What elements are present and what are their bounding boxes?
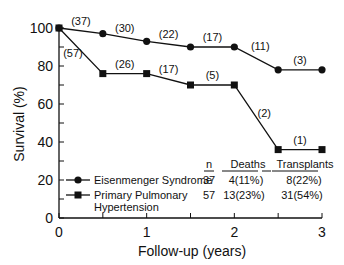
y-tick-label: 60: [37, 96, 53, 112]
y-tick-label: 100: [30, 20, 54, 36]
table-header-deaths: Deaths: [231, 158, 266, 170]
circle-marker-icon: [231, 43, 238, 50]
summary-table: n Deaths Transplants 37 4(11%) 8(22%) 57…: [203, 158, 334, 201]
circle-marker-icon: [143, 38, 150, 45]
table-cell-eis-transplants: 8(22%): [286, 174, 321, 186]
at-risk-count-label: (11): [251, 40, 270, 52]
y-tick-label: 0: [45, 210, 53, 226]
x-tick-label: 3: [318, 224, 326, 240]
square-marker-icon: [319, 146, 326, 153]
at-risk-count-label: (1): [293, 134, 306, 146]
legend: Eisenmenger Syndrome Primary Pulmonary H…: [66, 174, 212, 213]
at-risk-count-label: (22): [159, 28, 179, 40]
y-tick-label: 40: [37, 134, 53, 150]
square-marker-icon: [187, 82, 194, 89]
at-risk-count-label: (37): [71, 15, 91, 27]
square-marker-icon: [231, 82, 238, 89]
circle-marker-icon: [99, 30, 106, 37]
legend-eis-label: Eisenmenger Syndrome: [94, 174, 212, 186]
legend-pph-label-line1: Primary Pulmonary: [94, 189, 188, 201]
at-risk-count-label: (17): [159, 63, 179, 75]
table-cell-eis-deaths: 4(11%): [229, 174, 264, 186]
survival-chart: 0204060801000123 (37)(30)(22)(17)(11)(3)…: [0, 0, 344, 265]
table-header-transplants: Transplants: [276, 158, 334, 170]
square-marker-icon: [56, 25, 63, 32]
circle-marker-icon: [318, 66, 325, 73]
at-risk-count-label: (57): [63, 47, 83, 59]
circle-marker-icon: [275, 66, 282, 73]
at-risk-count-label: (30): [115, 22, 135, 34]
square-marker-icon: [143, 70, 150, 77]
y-tick-label: 80: [37, 58, 53, 74]
at-risk-count-label: (2): [258, 107, 271, 119]
table-cell-eis-n: 37: [203, 174, 215, 186]
y-axis-title: Survival (%): [11, 86, 27, 161]
x-tick-label: 1: [143, 224, 151, 240]
x-tick-label: 2: [230, 224, 238, 240]
series-layer: [55, 24, 325, 153]
y-tick-label: 20: [37, 172, 53, 188]
legend-square-marker-icon: [75, 192, 82, 199]
square-marker-icon: [99, 70, 106, 77]
circle-marker-icon: [187, 43, 194, 50]
at-risk-count-label: (5): [206, 69, 219, 81]
x-tick-label: 0: [55, 224, 63, 240]
at-risk-count-label: (3): [293, 54, 306, 66]
at-risk-count-label: (17): [203, 31, 223, 43]
x-axis-title: Follow-up (years): [138, 243, 246, 259]
square-marker-icon: [275, 146, 282, 153]
at-risk-count-label: (26): [115, 58, 135, 70]
legend-pph-label-line2: Hypertension: [94, 201, 159, 213]
legend-circle-marker-icon: [74, 176, 81, 183]
table-cell-pph-transplants: 31(54%): [281, 189, 323, 201]
table-cell-pph-n: 57: [203, 189, 215, 201]
table-cell-pph-deaths: 13(23%): [223, 189, 265, 201]
table-header-n: n: [206, 158, 212, 170]
